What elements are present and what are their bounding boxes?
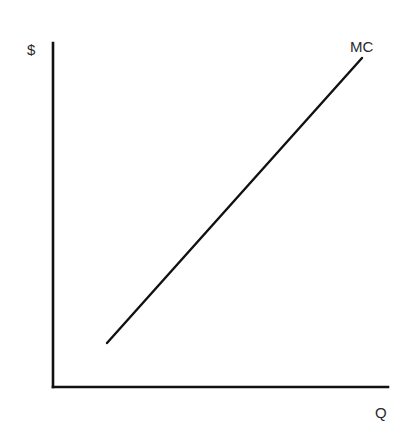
x-axis-label: Q xyxy=(375,404,387,421)
mc-chart: $ Q MC xyxy=(0,0,411,442)
y-axis-label: $ xyxy=(27,41,36,58)
mc-curve xyxy=(107,58,362,343)
mc-curve-label: MC xyxy=(350,38,373,55)
